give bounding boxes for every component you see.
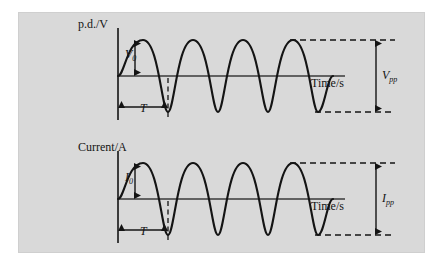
- voltage-peak-to-peak-subscript: pp: [389, 75, 397, 84]
- current-x-axis-label: Time/s: [311, 199, 344, 214]
- voltage-panel: [118, 28, 395, 120]
- voltage-period-label: T: [140, 101, 147, 116]
- voltage-x-axis-label: Time/s: [311, 76, 344, 91]
- current-peak-to-peak-subscript: pp: [386, 198, 394, 207]
- current-y-axis-label: Current/A: [78, 140, 127, 155]
- voltage-amplitude-label: V0: [125, 47, 136, 63]
- current-amplitude-label: I0: [125, 170, 133, 186]
- voltage-peak-to-peak-label: Vpp: [382, 68, 397, 84]
- current-amplitude-subscript: 0: [129, 177, 133, 186]
- current-period-label: T: [140, 224, 147, 239]
- current-peak-to-peak-label: Ipp: [382, 191, 394, 207]
- voltage-amplitude-subscript: 0: [132, 54, 136, 63]
- current-panel: [118, 151, 395, 243]
- voltage-y-axis-label: p.d./V: [78, 17, 108, 32]
- waveform-diagram: [0, 0, 437, 270]
- figure-root: p.d./V Time/s V0 T Vpp Current/A Time/s …: [0, 0, 437, 270]
